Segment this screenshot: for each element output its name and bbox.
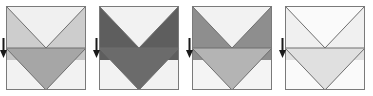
arrow-down-icon: [186, 50, 193, 58]
arrow-down-icon: [93, 50, 100, 58]
arrow-down-icon: [279, 50, 286, 58]
panel-4: [279, 0, 372, 96]
panel-1: [0, 0, 93, 96]
fold-diagram-figure: [0, 0, 373, 96]
panel-2: [93, 0, 186, 96]
panel-3: [186, 0, 279, 96]
arrow-down-icon: [0, 50, 7, 58]
